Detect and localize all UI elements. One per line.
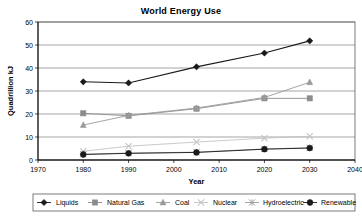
marker-circle (262, 146, 268, 152)
y-tick-label: 10 (25, 134, 33, 141)
x-tick-label: 2020 (257, 166, 273, 173)
marker-circle (307, 145, 313, 151)
legend-item-nuclear[interactable]: Nuclear (194, 199, 238, 206)
y-axis-title: Quadrillion kJ (6, 66, 15, 116)
marker-square (81, 111, 86, 116)
x-tick-label: 2010 (211, 166, 227, 173)
legend-item-renewable[interactable]: Renewable (303, 199, 356, 206)
y-tick-label: 0 (29, 157, 33, 164)
legend-label: Coal (175, 199, 190, 206)
marker-circle (307, 200, 313, 206)
legend-label: Nuclear (213, 199, 238, 206)
marker-square (92, 200, 97, 205)
x-tick-label: 2000 (166, 166, 182, 173)
marker-diamond (261, 50, 267, 56)
legend-label: Renewable (321, 199, 356, 206)
chart-plot-area: 0102030405060197019801990200020102020203… (0, 0, 362, 222)
series-line (83, 82, 309, 125)
marker-circle (80, 152, 86, 158)
x-tick-label: 1970 (30, 166, 46, 173)
legend-item-liquids[interactable]: Liquids (37, 199, 79, 207)
legend-label: Liquids (56, 199, 79, 207)
chart-container: World Energy Use 01020304050601970198019… (0, 0, 362, 222)
x-tick-label: 1990 (121, 166, 137, 173)
marker-diamond (193, 64, 199, 70)
x-tick-label: 2040 (347, 166, 362, 173)
marker-circle (126, 150, 132, 156)
legend-item-hydroelectric[interactable]: Hydroelectric (245, 199, 304, 207)
y-tick-label: 50 (25, 42, 33, 49)
marker-diamond (307, 38, 313, 44)
legend-item-natural-gas[interactable]: Natural Gas (88, 199, 145, 206)
series-renewable (80, 145, 312, 157)
marker-diamond (41, 199, 47, 205)
legend-item-coal[interactable]: Coal (156, 199, 190, 206)
x-tick-label: 1980 (75, 166, 91, 173)
legend-label: Hydroelectric (263, 199, 304, 207)
y-tick-label: 30 (25, 88, 33, 95)
marker-triangle (307, 79, 313, 85)
x-axis-title: Year (189, 177, 205, 186)
y-tick-label: 40 (25, 65, 33, 72)
x-tick-label: 2030 (302, 166, 318, 173)
series-line (83, 41, 309, 83)
marker-circle (194, 150, 200, 156)
marker-diamond (80, 79, 86, 85)
series-coal (80, 79, 312, 127)
marker-diamond (125, 80, 131, 86)
legend-label: Natural Gas (107, 199, 145, 206)
marker-square (307, 96, 312, 101)
y-tick-label: 60 (25, 19, 33, 26)
y-tick-label: 20 (25, 111, 33, 118)
